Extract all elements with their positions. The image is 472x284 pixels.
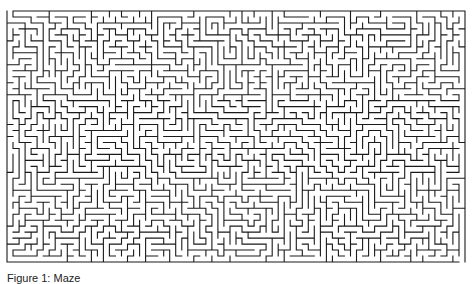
figure-caption: Figure 1: Maze <box>7 272 80 284</box>
maze-walls <box>7 11 465 262</box>
